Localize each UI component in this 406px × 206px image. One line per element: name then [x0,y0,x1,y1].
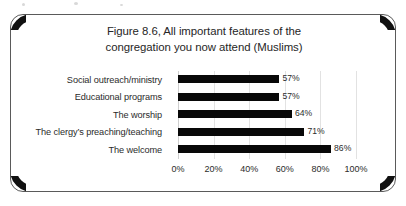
category-label: The clergy’s preaching/teaching [7,127,162,137]
scan-artifacts [0,0,406,14]
bar-row: 57% [178,89,356,107]
plot-area: 57%57%64%71%86% [178,71,356,159]
bar-row: 64% [178,106,356,124]
value-tick-label: 40% [240,163,258,175]
bar-row: 57% [178,71,356,89]
bar-row: 86% [178,141,356,159]
category-axis-labels: Social outreach/ministryEducational prog… [11,71,168,159]
bar [178,145,331,153]
chart-title: Figure 8.6, All important features of th… [11,23,397,55]
chart-body: Social outreach/ministryEducational prog… [11,71,397,183]
value-axis-labels: 0%20%40%60%80%100% [178,163,356,179]
category-label: Educational programs [7,92,162,102]
bar-value-label: 64% [295,108,312,119]
bar-value-label: 71% [307,126,324,137]
bar [178,93,279,101]
value-tick-label: 20% [205,163,223,175]
bar-value-label: 57% [282,91,299,102]
bar-value-label: 86% [334,143,351,154]
value-tick-label: 0% [171,163,184,175]
bar-row: 71% [178,124,356,142]
category-label: The worship [7,110,162,120]
gridline [356,71,357,159]
bar [178,110,292,118]
category-label: The welcome [7,145,162,155]
bar [178,75,279,83]
value-tick-label: 100% [344,163,367,175]
chart-title-line-2: congregation you now attend (Muslims) [11,39,397,55]
category-label: Social outreach/ministry [7,75,162,85]
chart-title-line-1: Figure 8.6, All important features of th… [11,23,397,39]
figure-frame: Figure 8.6, All important features of th… [10,14,396,192]
bar [178,128,304,136]
bar-value-label: 57% [282,73,299,84]
value-tick-label: 60% [276,163,294,175]
value-tick-label: 80% [311,163,329,175]
